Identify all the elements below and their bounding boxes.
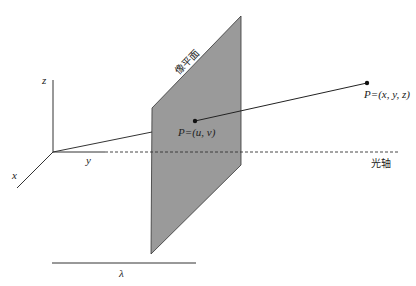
focal-length-label: λ <box>118 267 124 279</box>
image-point-dot <box>193 119 197 123</box>
world-point-label: P=(x, y, z) <box>363 88 410 101</box>
projection-ray-near <box>53 132 152 152</box>
y-axis-label: y <box>85 154 91 166</box>
z-axis-label: z <box>41 74 47 86</box>
optical-axis-label: 光轴 <box>371 157 391 169</box>
image-point-label: P=(u, v) <box>177 126 216 139</box>
world-point-dot <box>365 81 369 85</box>
x-axis-label: x <box>11 169 17 181</box>
x-axis <box>17 152 53 188</box>
camera-projection-diagram: z y x 像平面 P=(u, v) P=(x, y, z) 光轴 λ <box>0 0 416 286</box>
